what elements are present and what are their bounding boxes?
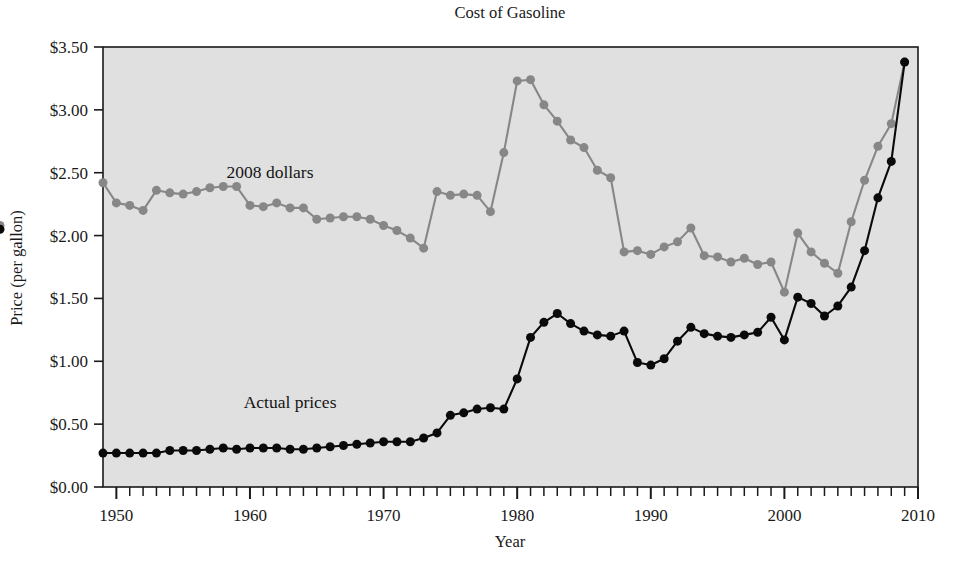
series-label-2008-dollars: 2008 dollars [227, 162, 314, 182]
data-point [179, 190, 188, 199]
data-point [579, 327, 588, 336]
data-point [419, 433, 428, 442]
gasoline-cost-line-chart: Cost of Gasoline $0.00$0.50$1.00$1.50$2.… [0, 0, 956, 564]
data-point [833, 269, 842, 278]
data-point [753, 260, 762, 269]
data-point [780, 288, 789, 297]
data-point [299, 445, 308, 454]
data-point [352, 440, 361, 449]
data-point [112, 198, 121, 207]
data-point [646, 361, 655, 370]
y-tick-label: $3.00 [50, 101, 88, 120]
data-point [606, 332, 615, 341]
data-point [513, 374, 522, 383]
data-point [286, 445, 295, 454]
data-point [833, 301, 842, 310]
data-point [245, 201, 254, 210]
data-point [406, 234, 415, 243]
data-point [620, 327, 629, 336]
data-point [646, 250, 655, 259]
data-point [686, 224, 695, 233]
data-point [660, 354, 669, 363]
data-point [112, 449, 121, 458]
data-point [259, 202, 268, 211]
series-label-actual-prices: Actual prices [244, 392, 337, 412]
data-point [165, 446, 174, 455]
data-point [446, 191, 455, 200]
data-point [673, 337, 682, 346]
chart-page: Cost of Gasoline $0.00$0.50$1.00$1.50$2.… [0, 0, 956, 564]
data-point [566, 136, 575, 145]
data-point [139, 206, 148, 215]
data-point [339, 441, 348, 450]
data-point [192, 446, 201, 455]
data-point [219, 444, 228, 453]
data-point [780, 335, 789, 344]
data-point [726, 257, 735, 266]
data-point [873, 193, 882, 202]
data-point [860, 176, 869, 185]
data-point [873, 142, 882, 151]
data-point [205, 183, 214, 192]
data-point [192, 187, 201, 196]
data-point [312, 215, 321, 224]
data-point [272, 444, 281, 453]
data-point [486, 207, 495, 216]
data-point [767, 313, 776, 322]
data-point [633, 246, 642, 255]
data-point [713, 252, 722, 261]
data-point [99, 449, 108, 458]
data-point [379, 221, 388, 230]
data-point [433, 428, 442, 437]
data-point [807, 247, 816, 256]
data-point [620, 247, 629, 256]
data-point [553, 117, 562, 126]
data-point [793, 293, 802, 302]
data-point [767, 257, 776, 266]
data-point [566, 319, 575, 328]
chart-title: Cost of Gasoline [455, 3, 566, 22]
data-point [593, 166, 602, 175]
data-point [259, 444, 268, 453]
data-point [539, 100, 548, 109]
data-point [326, 213, 335, 222]
data-point [847, 283, 856, 292]
data-point [406, 437, 415, 446]
data-point [392, 437, 401, 446]
data-point [513, 76, 522, 85]
data-point [700, 329, 709, 338]
data-point [820, 312, 829, 321]
y-tick-label: $0.00 [50, 478, 88, 497]
data-point [860, 246, 869, 255]
x-tick-label: 2000 [767, 506, 801, 525]
y-tick-label: $0.50 [50, 415, 88, 434]
y-tick-label: $3.50 [50, 38, 88, 57]
data-point [152, 449, 161, 458]
data-point [366, 439, 375, 448]
data-point [352, 212, 361, 221]
data-point [99, 178, 108, 187]
data-point [673, 237, 682, 246]
data-point [245, 444, 254, 453]
data-point [326, 442, 335, 451]
data-point [526, 333, 535, 342]
x-tick-label: 1960 [233, 506, 267, 525]
data-point [312, 444, 321, 453]
data-point [446, 411, 455, 420]
data-point [473, 405, 482, 414]
data-point [433, 187, 442, 196]
x-tick-label: 1950 [99, 506, 133, 525]
data-point [740, 330, 749, 339]
data-point [726, 333, 735, 342]
data-point [526, 75, 535, 84]
data-point [473, 191, 482, 200]
data-point [339, 212, 348, 221]
data-point [499, 405, 508, 414]
data-point [232, 445, 241, 454]
data-point [459, 408, 468, 417]
x-axis-title: Year [495, 532, 526, 551]
data-point [165, 188, 174, 197]
data-point [539, 318, 548, 327]
data-point [713, 332, 722, 341]
data-point [807, 299, 816, 308]
